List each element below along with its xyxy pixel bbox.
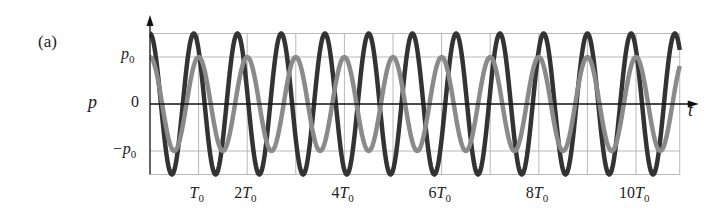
y-axis-arrow-icon bbox=[147, 15, 154, 26]
plot-area bbox=[0, 0, 728, 222]
x-axis-arrow-icon bbox=[688, 101, 699, 108]
